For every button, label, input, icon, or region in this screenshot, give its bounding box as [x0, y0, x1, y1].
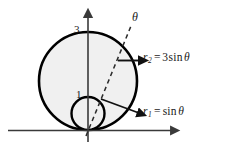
outer-eq-argument: θ	[184, 51, 190, 63]
outer-eq-equals: =	[152, 51, 162, 63]
inner-eq-argument: θ	[178, 105, 184, 117]
polar-circles-figure: 3 1 θ r2=3sinθ r1=sinθ	[0, 0, 225, 157]
y-axis-tick-label-3: 3	[74, 24, 80, 35]
outer-eq-variable: r	[143, 51, 148, 63]
inner-eq-variable: r	[143, 105, 148, 117]
outer-eq-coefficient: 3	[162, 51, 168, 63]
figure-canvas	[0, 0, 225, 157]
inner-eq-function: sin	[163, 105, 179, 117]
y-axis-tick-label-1: 1	[76, 89, 82, 100]
outer-eq-function: sin	[169, 51, 185, 63]
outer-circle-equation-label: r2=3sinθ	[143, 52, 190, 65]
inner-circle-equation-label: r1=sinθ	[143, 106, 184, 119]
theta-angle-label: θ	[132, 11, 138, 23]
inner-eq-equals: =	[152, 105, 162, 117]
